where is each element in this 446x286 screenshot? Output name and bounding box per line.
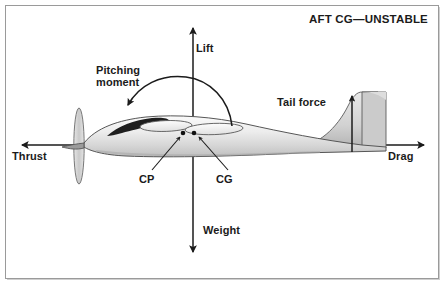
label-cg: CG bbox=[216, 173, 233, 185]
diagram-title: AFT CG—UNSTABLE bbox=[309, 13, 428, 26]
label-thrust: Thrust bbox=[12, 150, 47, 162]
label-drag: Drag bbox=[388, 150, 413, 162]
label-lift: Lift bbox=[196, 42, 214, 54]
aircraft-side-view-icon bbox=[62, 92, 386, 184]
spinner bbox=[62, 143, 84, 149]
tail-trailing-edge bbox=[362, 92, 386, 148]
label-weight: Weight bbox=[203, 224, 240, 236]
label-tail-force: Tail force bbox=[277, 96, 326, 108]
label-cp: CP bbox=[139, 173, 154, 185]
cp-point bbox=[181, 131, 186, 136]
label-pitching-moment-line1: Pitching bbox=[96, 64, 140, 76]
diagram-canvas bbox=[0, 0, 446, 286]
label-pitching-moment: Pitching moment bbox=[96, 64, 140, 89]
diagram-page: AFT CG—UNSTABLE Lift Pitching moment Thr… bbox=[0, 0, 446, 286]
cg-point bbox=[192, 131, 197, 136]
label-pitching-moment-line2: moment bbox=[96, 76, 139, 88]
